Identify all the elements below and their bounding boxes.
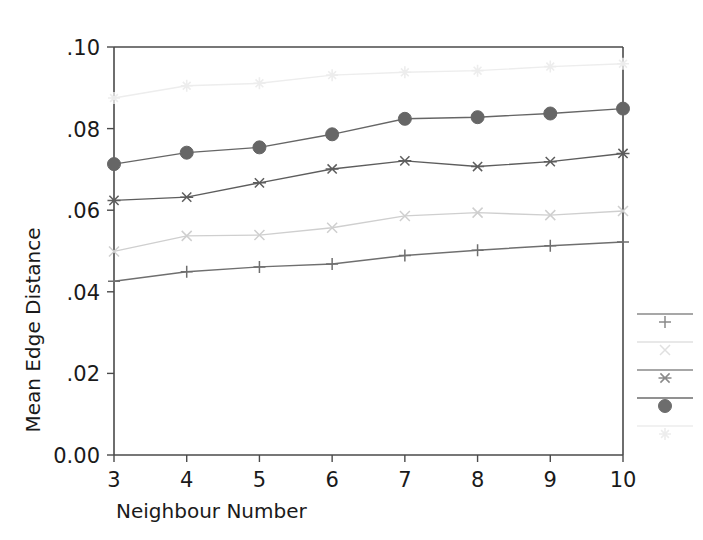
marker-filled-circle — [471, 111, 484, 124]
x-tick-label: 8 — [471, 468, 484, 492]
x-tick-label: 10 — [610, 468, 637, 492]
figure-background — [0, 0, 703, 540]
legend-item-1[interactable] — [633, 309, 699, 335]
marker-filled-circle — [180, 146, 193, 159]
marker-filled-circle — [253, 141, 266, 154]
marker-filled-circle — [398, 112, 411, 125]
marker-filled-circle — [544, 107, 557, 120]
x-tick-label: 5 — [253, 468, 266, 492]
y-tick-label: .08 — [67, 118, 100, 142]
marker-filled-circle — [659, 400, 672, 413]
legend-item-3[interactable] — [633, 365, 699, 391]
x-tick-label: 7 — [398, 468, 411, 492]
chart-svg: 0.00.02.04.06.08.10 345678910 Mean Edge … — [0, 0, 703, 540]
chart-figure: 0.00.02.04.06.08.10 345678910 Mean Edge … — [0, 0, 703, 540]
x-tick-label: 4 — [180, 468, 193, 492]
legend-item-5[interactable] — [633, 421, 699, 447]
x-axis-title: Neighbour Number — [116, 499, 308, 523]
legend-item-4[interactable] — [633, 393, 699, 419]
marker-filled-circle — [617, 102, 630, 115]
x-tick-label: 3 — [107, 468, 120, 492]
marker-filled-circle — [326, 128, 339, 141]
y-tick-label: 0.00 — [53, 444, 100, 468]
y-tick-label: .04 — [67, 281, 100, 305]
marker-filled-circle — [108, 158, 121, 171]
x-tick-label: 9 — [544, 468, 557, 492]
y-tick-label: .06 — [67, 199, 100, 223]
y-axis-title: Mean Edge Distance — [21, 228, 45, 433]
y-tick-label: .10 — [67, 36, 100, 60]
legend-item-2[interactable] — [633, 337, 699, 363]
chart-legend[interactable] — [633, 309, 699, 447]
y-tick-label: .02 — [67, 362, 100, 386]
x-tick-label: 6 — [325, 468, 338, 492]
